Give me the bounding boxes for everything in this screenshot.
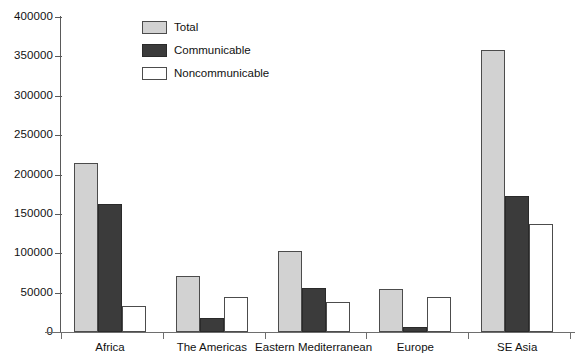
bar xyxy=(427,297,451,332)
x-axis-category-label: SE Asia xyxy=(497,341,537,353)
y-axis-tick-label: 0 xyxy=(1,325,53,337)
bar xyxy=(302,288,326,332)
bar xyxy=(505,196,529,332)
bar xyxy=(326,302,350,332)
x-axis-category-label: Africa xyxy=(95,341,124,353)
bars-layer xyxy=(61,17,570,332)
x-axis-tick xyxy=(570,333,571,339)
bar xyxy=(224,297,248,332)
x-axis-category-label: The Americas xyxy=(177,341,247,353)
x-axis-tick xyxy=(366,333,367,339)
bar xyxy=(122,306,146,332)
legend-label: Total xyxy=(174,21,198,33)
x-axis-line xyxy=(45,332,575,333)
y-axis-tick-label: 150000 xyxy=(1,207,53,219)
legend-swatch-noncommunicable xyxy=(142,67,167,80)
x-axis-tick xyxy=(265,333,266,339)
bar-chart: 0500001000001500002000002500003000003500… xyxy=(0,0,582,362)
bar xyxy=(481,50,505,332)
x-axis-category-label: Europe xyxy=(397,341,434,353)
legend-label: Noncommunicable xyxy=(174,67,269,79)
bar xyxy=(98,204,122,332)
chart-legend: TotalCommunicableNoncommunicable xyxy=(142,18,269,87)
y-axis-tick-label: 200000 xyxy=(1,168,53,180)
legend-swatch-total xyxy=(142,21,167,34)
bar xyxy=(74,163,98,332)
bar xyxy=(278,251,302,332)
y-axis-tick-label: 250000 xyxy=(1,128,53,140)
x-axis-tick xyxy=(61,333,62,339)
legend-item: Noncommunicable xyxy=(142,64,269,82)
legend-label: Communicable xyxy=(174,44,251,56)
x-axis-category-label: Eastern Mediterranean xyxy=(255,341,372,353)
x-axis-tick xyxy=(468,333,469,339)
y-axis-tick-label: 100000 xyxy=(1,246,53,258)
bar xyxy=(529,224,553,332)
bar xyxy=(379,289,403,332)
y-axis-tick-label: 400000 xyxy=(1,10,53,22)
bar xyxy=(200,318,224,332)
y-axis-tick-label: 350000 xyxy=(1,49,53,61)
y-axis-labels: 0500001000001500002000002500003000003500… xyxy=(0,0,53,362)
legend-item: Total xyxy=(142,18,269,36)
bar xyxy=(176,276,200,332)
legend-swatch-communicable xyxy=(142,44,167,57)
y-axis-tick-label: 300000 xyxy=(1,89,53,101)
x-axis-tick xyxy=(163,333,164,339)
y-axis-tick-label: 50000 xyxy=(1,286,53,298)
legend-item: Communicable xyxy=(142,41,269,59)
